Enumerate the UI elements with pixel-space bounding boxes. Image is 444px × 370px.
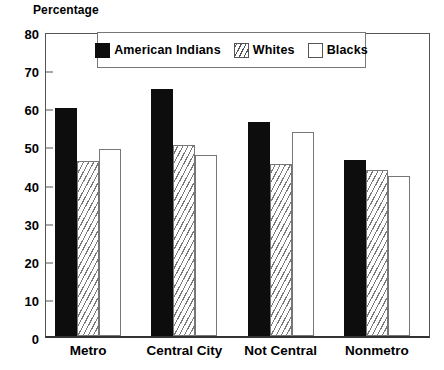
y-tick-mark [46, 110, 53, 111]
y-tick-label: 50 [25, 141, 39, 156]
legend-label: American Indians [114, 43, 221, 57]
y-tick-label: 20 [25, 255, 39, 270]
x-tick-label: Nonmetro [345, 343, 409, 358]
y-tick-label: 30 [25, 217, 39, 232]
legend-swatch-icon [95, 43, 110, 58]
y-tick-mark [46, 72, 53, 73]
y-tick-mark [46, 186, 53, 187]
bar-chart: Percentage 01020304050607080 MetroCentra… [0, 0, 444, 370]
x-tick-label: Central City [146, 343, 222, 358]
legend-swatch-icon [234, 43, 249, 58]
legend-label: Whites [253, 43, 295, 57]
y-tick-label: 60 [25, 103, 39, 118]
y-tick-mark [46, 148, 53, 149]
bar-nonmetro-american-indians [344, 160, 366, 336]
y-tick-label: 40 [25, 179, 39, 194]
y-tick-mark [46, 224, 53, 225]
legend-item-whites: Whites [234, 43, 295, 58]
plot-area: 01020304050607080 MetroCentral CityNot C… [45, 33, 430, 338]
legend: American IndiansWhitesBlacks [97, 32, 366, 68]
bar-metro-blacks [99, 149, 121, 336]
y-tick-label: 80 [25, 27, 39, 42]
bar-nonmetro-whites [366, 170, 388, 336]
x-tick-label: Not Central [244, 343, 317, 358]
legend-item-blacks: Blacks [308, 43, 368, 58]
bar-nonmetro-blacks [388, 176, 410, 336]
bar-not-central-blacks [292, 132, 314, 336]
bar-not-central-whites [270, 164, 292, 336]
bar-central-city-american-indians [151, 89, 173, 336]
bar-metro-american-indians [55, 108, 77, 336]
y-tick-mark [46, 300, 53, 301]
bar-metro-whites [77, 161, 99, 336]
bar-not-central-american-indians [248, 122, 270, 336]
bar-central-city-whites [173, 145, 195, 336]
legend-label: Blacks [327, 43, 368, 57]
y-tick-label: 0 [32, 332, 39, 347]
bar-central-city-blacks [195, 155, 217, 336]
legend-item-american-indians: American Indians [95, 43, 221, 58]
x-tick-label: Metro [70, 343, 107, 358]
y-tick-mark [46, 262, 53, 263]
y-axis-title: Percentage [33, 3, 99, 17]
y-tick-label: 70 [25, 65, 39, 80]
y-tick-label: 10 [25, 293, 39, 308]
legend-swatch-icon [308, 43, 323, 58]
